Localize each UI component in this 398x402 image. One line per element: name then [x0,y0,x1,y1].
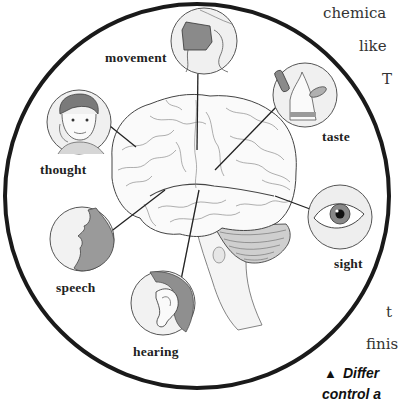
caption-text: Differ [343,365,379,381]
thought-inset [47,90,111,154]
hearing-inset [131,271,195,335]
caption-next-line: control a [322,386,381,402]
figure-caption: ▲Differ [324,365,379,381]
side-text-line-2: like [359,37,387,55]
side-text-line-1: chemica [323,4,386,22]
taste-inset [273,63,337,127]
triangle-marker-icon: ▲ [324,366,337,381]
label-sight: sight [334,256,363,272]
sight-inset [308,185,372,249]
label-movement: movement [105,50,167,66]
cerebrum [112,94,296,236]
movement-inset [171,8,237,74]
speech-inset [50,207,114,271]
label-thought: thought [40,162,86,178]
side-text-line-3: T [382,70,392,88]
side-text-line-5: finis [366,335,398,353]
side-text-line-4: t [386,303,392,321]
label-taste: taste [322,129,350,145]
label-speech: speech [56,280,95,296]
label-hearing: hearing [133,344,179,360]
